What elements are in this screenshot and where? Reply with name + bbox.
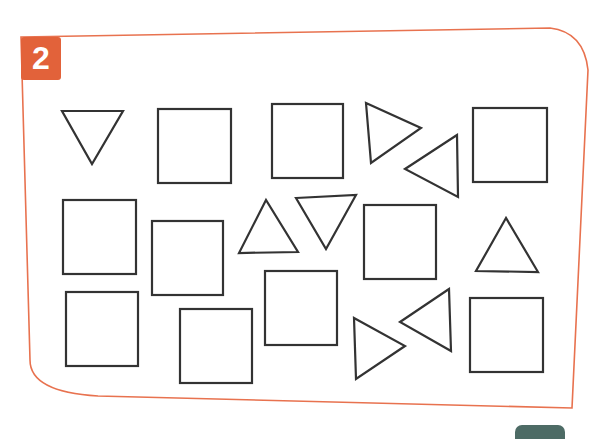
triangle-right-shape	[354, 318, 405, 379]
triangle-up-shape	[476, 218, 538, 272]
triangle-up-shape	[239, 200, 298, 253]
square-shape	[158, 109, 231, 183]
square-shape	[66, 292, 138, 366]
square-shape	[265, 271, 337, 345]
exercise-number-badge: 2	[21, 37, 61, 80]
exercise-frame	[21, 28, 588, 408]
exercise-number: 2	[32, 40, 50, 77]
square-shape	[473, 108, 547, 182]
triangle-down-shape	[296, 195, 356, 249]
triangle-right-shape	[366, 103, 421, 163]
square-shape	[152, 221, 223, 295]
page-tab-edge	[515, 425, 565, 439]
triangle-left-shape	[400, 289, 451, 351]
square-shape	[272, 104, 343, 178]
triangle-left-shape	[405, 135, 458, 197]
square-shape	[63, 200, 136, 274]
square-shape	[470, 298, 543, 372]
square-shape	[180, 309, 252, 383]
shapes-group	[62, 103, 547, 383]
triangle-down-shape	[62, 111, 123, 164]
square-shape	[364, 205, 436, 279]
